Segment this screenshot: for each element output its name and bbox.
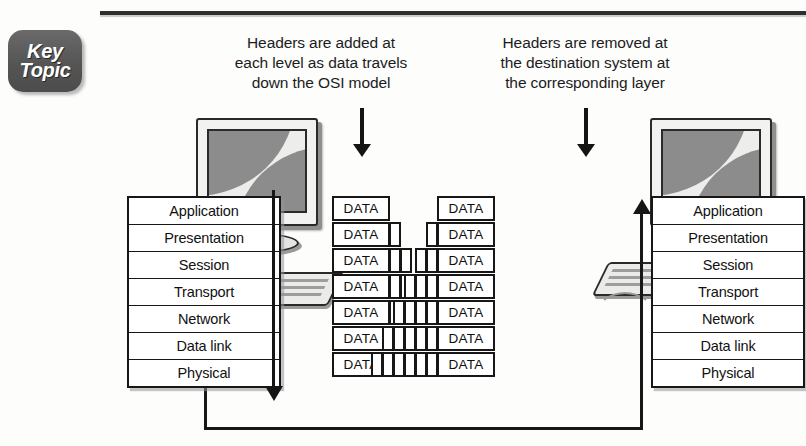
key-topic-badge: Key Topic bbox=[8, 30, 82, 92]
protocol-header-bar bbox=[393, 352, 404, 377]
protocol-header-bar bbox=[426, 222, 437, 247]
data-pdu-row[interactable]: DATA bbox=[332, 248, 412, 273]
protocol-header-bar bbox=[393, 300, 404, 325]
protocol-header-bar bbox=[404, 326, 415, 351]
protocol-header-bar bbox=[415, 248, 426, 273]
layer-cell-physical[interactable]: Physical bbox=[129, 360, 279, 386]
data-payload-box: DATA bbox=[437, 300, 495, 325]
osi-layer-stack-source: Application Presentation Session Transpo… bbox=[127, 196, 281, 388]
protocol-header-bar bbox=[390, 248, 401, 273]
layer-cell-data-link[interactable]: Data link bbox=[129, 333, 279, 360]
data-pdu-row[interactable]: DATA bbox=[382, 326, 495, 351]
data-payload-box: DATA bbox=[332, 248, 390, 273]
data-pdu-row[interactable]: DATA bbox=[393, 300, 495, 325]
layer-cell-session-dest[interactable]: Session bbox=[653, 252, 803, 279]
protocol-header-bar bbox=[393, 326, 404, 351]
caption-left-line-2: each level as data travels bbox=[196, 53, 446, 73]
protocol-header-bar bbox=[404, 274, 415, 299]
top-horizontal-rule bbox=[100, 11, 806, 15]
protocol-header-bar bbox=[415, 326, 426, 351]
data-pdu-row[interactable]: DATA bbox=[332, 222, 401, 247]
protocol-header-bar bbox=[415, 274, 426, 299]
layer-cell-presentation-dest[interactable]: Presentation bbox=[653, 225, 803, 252]
data-pdu-row[interactable]: DATA bbox=[404, 274, 495, 299]
protocol-header-bar bbox=[382, 326, 393, 351]
protocol-header-bar bbox=[371, 352, 382, 377]
data-pdu-row[interactable]: DATA bbox=[371, 352, 495, 377]
protocol-header-bar bbox=[382, 352, 393, 377]
layer-cell-transport-dest[interactable]: Transport bbox=[653, 279, 803, 306]
protocol-header-bar bbox=[426, 326, 437, 351]
decapsulation-up-arrow-head-icon bbox=[633, 199, 651, 214]
encapsulation-down-arrow-shaft bbox=[272, 190, 275, 390]
layer-cell-physical-dest[interactable]: Physical bbox=[653, 360, 803, 386]
data-pdu-row[interactable]: DATA bbox=[332, 196, 390, 221]
protocol-header-bar bbox=[415, 300, 426, 325]
data-payload-box: DATA bbox=[437, 196, 495, 221]
protocol-header-bar bbox=[404, 300, 415, 325]
caption-right-line-2: the destination system at bbox=[460, 53, 710, 73]
key-topic-line2: Topic bbox=[19, 61, 70, 80]
data-payload-box: DATA bbox=[332, 274, 390, 299]
protocol-header-bar bbox=[390, 274, 401, 299]
protocol-header-bar bbox=[426, 274, 437, 299]
data-pdu-row[interactable]: DATA bbox=[437, 196, 495, 221]
data-pdu-row[interactable]: DATA bbox=[415, 248, 495, 273]
protocol-header-bar bbox=[426, 248, 437, 273]
protocol-header-bar bbox=[415, 352, 426, 377]
data-payload-box: DATA bbox=[332, 222, 390, 247]
data-payload-box: DATA bbox=[332, 300, 390, 325]
layer-cell-session[interactable]: Session bbox=[129, 252, 279, 279]
osi-layer-stack-destination: Application Presentation Session Transpo… bbox=[651, 196, 805, 388]
layer-cell-transport[interactable]: Transport bbox=[129, 279, 279, 306]
caption-right: Headers are removed at the destination s… bbox=[460, 33, 710, 93]
protocol-header-bar bbox=[390, 222, 401, 247]
data-payload-box: DATA bbox=[437, 274, 495, 299]
data-payload-box: DATA bbox=[332, 196, 390, 221]
encapsulation-down-arrow-head-icon bbox=[265, 386, 283, 401]
data-payload-box: DATA bbox=[437, 248, 495, 273]
layer-cell-network-dest[interactable]: Network bbox=[653, 306, 803, 333]
protocol-header-bar bbox=[404, 352, 415, 377]
destination-cable bbox=[596, 292, 654, 336]
caption-right-line-3: the corresponding layer bbox=[460, 73, 710, 93]
caption-left: Headers are added at each level as data … bbox=[196, 33, 446, 93]
data-payload-box: DATA bbox=[437, 352, 495, 377]
data-payload-box: DATA bbox=[437, 326, 495, 351]
layer-cell-presentation[interactable]: Presentation bbox=[129, 225, 279, 252]
caption-left-line-3: down the OSI model bbox=[196, 73, 446, 93]
layer-cell-application-dest[interactable]: Application bbox=[653, 198, 803, 225]
protocol-header-bar bbox=[401, 248, 412, 273]
layer-cell-application[interactable]: Application bbox=[129, 198, 279, 225]
protocol-header-bar bbox=[426, 300, 437, 325]
caption-left-line-1: Headers are added at bbox=[196, 33, 446, 53]
layer-cell-data-link-dest[interactable]: Data link bbox=[653, 333, 803, 360]
data-pdu-row[interactable]: DATA bbox=[426, 222, 495, 247]
protocol-header-bar bbox=[426, 352, 437, 377]
osi-encapsulation-figure: Key Topic Headers are added at each leve… bbox=[0, 0, 806, 446]
decapsulation-up-arrow-shaft bbox=[640, 212, 643, 430]
bottom-connector-horizontal bbox=[204, 427, 641, 430]
data-payload-box: DATA bbox=[437, 222, 495, 247]
layer-cell-network[interactable]: Network bbox=[129, 306, 279, 333]
caption-right-line-1: Headers are removed at bbox=[460, 33, 710, 53]
